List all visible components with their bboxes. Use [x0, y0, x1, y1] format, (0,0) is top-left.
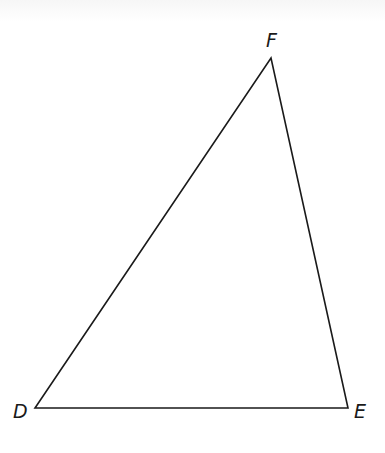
diagram-canvas: D E F: [0, 0, 385, 453]
triangle-def: [35, 58, 348, 408]
vertex-label-f: F: [266, 29, 278, 51]
triangle-diagram: D E F: [0, 0, 385, 453]
vertex-label-d: D: [13, 400, 28, 422]
vertex-label-e: E: [354, 400, 366, 422]
